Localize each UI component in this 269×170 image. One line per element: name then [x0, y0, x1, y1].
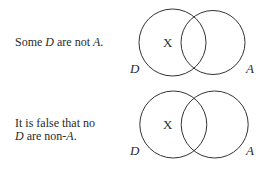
label-d: D: [129, 143, 140, 158]
label-a: A: [245, 143, 254, 158]
circle-a: [181, 11, 245, 75]
venn-diagram-1: X D A: [129, 9, 254, 76]
label-d: D: [129, 61, 140, 76]
venn-diagrams: X D A X D A: [0, 0, 269, 170]
circle-a: [181, 91, 248, 158]
label-a: A: [245, 61, 254, 76]
x-mark: X: [163, 117, 173, 132]
circle-d: [139, 9, 206, 76]
x-mark: X: [163, 35, 173, 50]
venn-diagram-2: X D A: [129, 91, 254, 158]
circle-d: [140, 91, 207, 158]
